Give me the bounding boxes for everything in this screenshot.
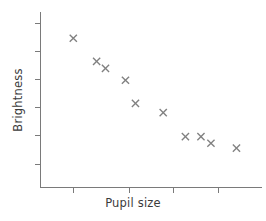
plot-area xyxy=(0,0,266,221)
data-point xyxy=(182,133,189,140)
data-point xyxy=(207,140,214,147)
data-point xyxy=(122,77,129,84)
data-point xyxy=(132,100,139,107)
y-axis-ticks xyxy=(35,24,41,165)
data-point xyxy=(102,65,109,72)
data-point xyxy=(93,58,100,65)
x-axis-ticks xyxy=(74,188,219,194)
data-point xyxy=(233,145,240,152)
x-axis-label: Pupil size xyxy=(0,196,266,210)
data-point xyxy=(160,109,167,116)
y-axis-label: Brightness xyxy=(11,52,25,148)
scatter-chart: Pupil size Brightness xyxy=(0,0,266,221)
data-point-group xyxy=(70,35,240,152)
data-point xyxy=(70,35,77,42)
data-point xyxy=(197,133,204,140)
